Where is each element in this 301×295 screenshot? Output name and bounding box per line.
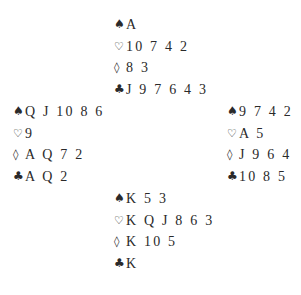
spade-icon: ♠ — [114, 188, 125, 210]
west-hand: ♠ Q J 10 8 6 ♡ 9 ◊ A Q 7 2 ♣ A Q 2 — [13, 101, 105, 188]
heart-icon: ♡ — [114, 210, 125, 232]
west-spades-cards: Q J 10 8 6 — [25, 101, 105, 123]
north-diamonds-row: ◊ 8 3 — [114, 57, 208, 79]
west-clubs-cards: A Q 2 — [25, 166, 69, 188]
north-hearts-row: ♡ 10 7 4 2 — [114, 36, 208, 58]
south-diamonds-row: ◊ K 10 5 — [114, 231, 214, 253]
heart-icon: ♡ — [227, 123, 238, 145]
east-spades-row: ♠ 9 7 4 2 — [227, 101, 293, 123]
south-hearts-row: ♡ K Q J 8 6 3 — [114, 210, 214, 232]
west-diamonds-row: ◊ A Q 7 2 — [13, 144, 105, 166]
north-clubs-row: ♣ J 9 7 6 4 3 — [114, 79, 208, 101]
west-diamonds-cards: A Q 7 2 — [25, 144, 84, 166]
west-hearts-row: ♡ 9 — [13, 123, 105, 145]
east-hand: ♠ 9 7 4 2 ♡ A 5 ◊ J 9 6 4 ♣ 10 8 5 — [227, 101, 293, 188]
south-clubs-row: ♣ K — [114, 253, 214, 275]
north-spades-row: ♠ A — [114, 14, 208, 36]
north-hearts-cards: 10 7 4 2 — [126, 36, 189, 58]
east-hearts-row: ♡ A 5 — [227, 123, 293, 145]
south-spades-row: ♠ K 5 3 — [114, 188, 214, 210]
diamond-icon: ◊ — [114, 57, 125, 79]
south-spades-cards: K 5 3 — [126, 188, 168, 210]
club-icon: ♣ — [114, 253, 125, 275]
south-diamonds-cards: K 10 5 — [126, 231, 177, 253]
east-diamonds-cards: J 9 6 4 — [239, 144, 291, 166]
north-spades-cards: A — [126, 14, 138, 36]
south-clubs-cards: K — [126, 253, 138, 275]
north-clubs-cards: J 9 7 6 4 3 — [126, 79, 208, 101]
club-icon: ♣ — [227, 166, 238, 188]
spade-icon: ♠ — [227, 101, 238, 123]
spade-icon: ♠ — [13, 101, 24, 123]
west-hearts-cards: 9 — [25, 123, 34, 145]
south-hearts-cards: K Q J 8 6 3 — [126, 210, 214, 232]
south-hand: ♠ K 5 3 ♡ K Q J 8 6 3 ◊ K 10 5 ♣ K — [114, 188, 214, 275]
diamond-icon: ◊ — [13, 144, 24, 166]
east-diamonds-row: ◊ J 9 6 4 — [227, 144, 293, 166]
heart-icon: ♡ — [13, 123, 24, 145]
east-spades-cards: 9 7 4 2 — [239, 101, 293, 123]
north-hand: ♠ A ♡ 10 7 4 2 ◊ 8 3 ♣ J 9 7 6 4 3 — [114, 14, 208, 101]
diamond-icon: ◊ — [227, 144, 238, 166]
heart-icon: ♡ — [114, 36, 125, 58]
east-hearts-cards: A 5 — [239, 123, 265, 145]
club-icon: ♣ — [114, 79, 125, 101]
spade-icon: ♠ — [114, 14, 125, 36]
north-diamonds-cards: 8 3 — [126, 57, 150, 79]
west-clubs-row: ♣ A Q 2 — [13, 166, 105, 188]
east-clubs-cards: 10 8 5 — [239, 166, 287, 188]
east-clubs-row: ♣ 10 8 5 — [227, 166, 293, 188]
diamond-icon: ◊ — [114, 231, 125, 253]
west-spades-row: ♠ Q J 10 8 6 — [13, 101, 105, 123]
club-icon: ♣ — [13, 166, 24, 188]
